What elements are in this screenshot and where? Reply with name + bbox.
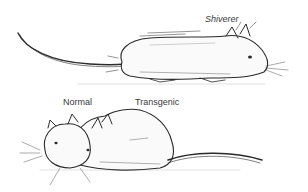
mouse-illustration (0, 0, 308, 192)
shiverer-mouse-drawing (18, 22, 288, 84)
label-shiverer: Shiverer (205, 14, 239, 24)
label-normal: Normal (63, 97, 92, 107)
label-transgenic: Transgenic (135, 97, 179, 107)
normal-and-transgenic-mice-drawing (20, 109, 262, 185)
illustration-svg (0, 0, 308, 192)
